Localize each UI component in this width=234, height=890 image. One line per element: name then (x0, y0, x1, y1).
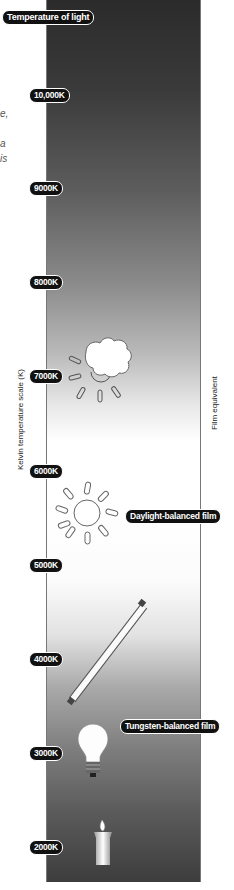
cropped-text-fragment: is (0, 153, 7, 164)
tick-3000k: 3000K (29, 746, 63, 761)
light-bulb-icon (75, 722, 111, 782)
tick-8000k: 8000K (29, 275, 63, 290)
tick-5000k: 5000K (29, 558, 63, 573)
tick-2000k: 2000K (29, 840, 63, 855)
candle-icon (92, 818, 114, 870)
tick-4000k: 4000K (29, 652, 63, 667)
daylight-film-label: Daylight-balanced film (125, 509, 221, 524)
cropped-text-fragment: a (0, 138, 6, 149)
axis-left-label: Kelvin temperature scale (K) (16, 369, 25, 470)
tungsten-film-label: Tungsten-balanced film (120, 719, 220, 734)
fluorescent-tube-icon (66, 600, 156, 710)
cloud-sun-icon (66, 330, 146, 410)
tick-9000k: 9000K (29, 181, 63, 196)
tick-10000k: 10,000K (29, 88, 70, 103)
diagram-title: Temperature of light (2, 10, 94, 25)
tick-6000k: 6000K (29, 464, 63, 479)
cropped-text-fragment: e, (0, 108, 8, 119)
kelvin-gradient-bar (46, 0, 201, 882)
tick-7000k: 7000K (29, 369, 63, 384)
sun-icon (56, 480, 126, 550)
axis-right-label: Film equivalent (210, 376, 219, 430)
